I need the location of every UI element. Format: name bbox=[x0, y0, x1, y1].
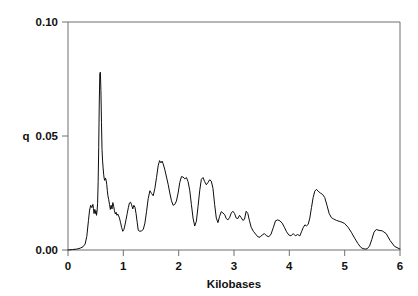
x-tick-label-6: 6 bbox=[397, 260, 403, 272]
x-tick-label-4: 4 bbox=[286, 260, 293, 272]
chart-background bbox=[0, 0, 418, 296]
x-axis-title: Kilobases bbox=[207, 278, 261, 290]
y-tick-label-1: 0.05 bbox=[36, 130, 59, 142]
x-tick-label-5: 5 bbox=[341, 260, 348, 272]
x-tick-label-1: 1 bbox=[120, 260, 127, 272]
y-axis-title: q bbox=[22, 130, 29, 142]
chart-figure: 0.00 0.05 0.10 0 1 2 3 4 5 6 Kilobases q bbox=[0, 0, 418, 296]
line-chart: 0.00 0.05 0.10 0 1 2 3 4 5 6 Kilobases q bbox=[0, 0, 418, 296]
y-tick-label-0: 0.00 bbox=[36, 244, 58, 256]
y-tick-label-2: 0.10 bbox=[36, 16, 58, 28]
x-tick-label-0: 0 bbox=[65, 260, 71, 272]
x-tick-label-3: 3 bbox=[231, 260, 237, 272]
x-tick-label-2: 2 bbox=[175, 260, 181, 272]
